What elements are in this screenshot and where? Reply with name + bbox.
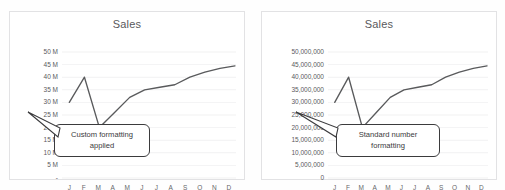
x-tick: M xyxy=(91,180,106,190)
x-tick: J xyxy=(135,180,150,190)
callout-leader-left xyxy=(28,110,98,138)
y-tick: 40,000,000 xyxy=(291,74,324,81)
x-tick: D xyxy=(222,180,237,190)
y-tick: 5,000,000 xyxy=(295,162,324,169)
y-tick: 30 M xyxy=(44,99,58,106)
y-tick: 35,000,000 xyxy=(291,87,324,94)
y-tick: 5 M xyxy=(47,162,58,169)
y-tick: 30,000,000 xyxy=(291,99,324,106)
callout-leader-right xyxy=(296,110,366,138)
x-tick: N xyxy=(207,180,222,190)
y-tick-zero: 0 xyxy=(320,175,324,182)
x-tick: A xyxy=(368,180,381,190)
x-axis-labels-right: J F M A M J J A S O N D xyxy=(328,180,488,190)
y-tick: 50,000,000 xyxy=(291,49,324,56)
page-title: Sales xyxy=(262,18,496,30)
x-tick: J xyxy=(62,180,77,190)
x-tick: A xyxy=(421,180,434,190)
x-tick: J xyxy=(408,180,421,190)
y-tick: 35 M xyxy=(44,87,58,94)
y-tick-zero: - xyxy=(56,175,58,182)
x-tick: M xyxy=(355,180,368,190)
x-tick: O xyxy=(448,180,461,190)
y-tick: 45,000,000 xyxy=(291,61,324,68)
x-tick: M xyxy=(120,180,135,190)
x-tick: D xyxy=(475,180,488,190)
x-tick: F xyxy=(341,180,354,190)
y-tick: 50 M xyxy=(44,49,58,56)
x-tick: J xyxy=(395,180,408,190)
plot-area-wrapper: 50,000,000 45,000,000 40,000,000 35,000,… xyxy=(262,38,496,179)
x-tick: A xyxy=(106,180,121,190)
screenshot-canvas: Sales 50 M 45 M 40 M 35 M 30 M 25 M 20 M… xyxy=(0,0,505,190)
x-tick: O xyxy=(193,180,208,190)
x-tick: A xyxy=(164,180,179,190)
x-tick: S xyxy=(435,180,448,190)
page-title: Sales xyxy=(10,18,244,30)
x-tick: F xyxy=(77,180,92,190)
y-tick: 10,000,000 xyxy=(291,150,324,157)
x-tick: J xyxy=(328,180,341,190)
y-tick: 40 M xyxy=(44,74,58,81)
plot-area-wrapper: 50 M 45 M 40 M 35 M 30 M 25 M 20 M 15 M … xyxy=(10,38,244,179)
y-tick: 45 M xyxy=(44,61,58,68)
x-tick: M xyxy=(381,180,394,190)
x-tick: J xyxy=(149,180,164,190)
x-tick: S xyxy=(178,180,193,190)
x-axis-labels-left: J F M A M J J A S O N D xyxy=(62,180,236,190)
x-tick: N xyxy=(461,180,474,190)
